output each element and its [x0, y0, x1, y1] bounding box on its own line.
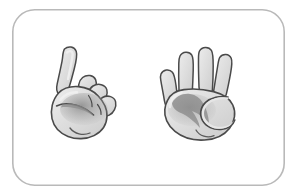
rounded-rectangle-border	[13, 10, 284, 185]
illustration-canvas: Counting with hands Two cartoon gloved h…	[0, 0, 297, 195]
frame-layer	[0, 0, 297, 195]
